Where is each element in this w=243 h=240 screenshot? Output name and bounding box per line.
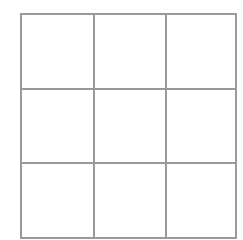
game-board	[20, 13, 237, 239]
cell-2-1[interactable]	[95, 164, 165, 237]
cell-0-2[interactable]	[167, 15, 235, 88]
cell-0-0[interactable]	[22, 15, 93, 88]
cell-1-0[interactable]	[22, 90, 93, 162]
cell-1-1[interactable]	[95, 90, 165, 162]
cell-1-2[interactable]	[167, 90, 235, 162]
cell-0-1[interactable]	[95, 15, 165, 88]
grid-line-right	[235, 13, 237, 239]
grid-line-bottom	[20, 237, 237, 239]
cell-2-2[interactable]	[167, 164, 235, 237]
cell-2-0[interactable]	[22, 164, 93, 237]
